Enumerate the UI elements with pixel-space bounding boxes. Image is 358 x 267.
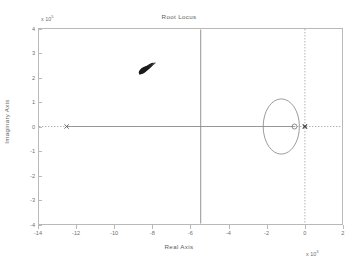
x-tick-label: -14 xyxy=(34,230,42,236)
x-tick-label: -4 xyxy=(226,230,231,236)
x-axis-multiplier-base: x 10 xyxy=(306,251,316,257)
y-tick-label: -1 xyxy=(21,148,35,154)
y-tick-label: -4 xyxy=(21,222,35,228)
y-tick xyxy=(38,102,42,103)
x-tick-label: 0 xyxy=(303,230,306,236)
x-tick xyxy=(190,225,191,229)
x-tick xyxy=(229,225,230,229)
y-axis-title: Imaginary Axis xyxy=(3,72,10,172)
y-tick-label: 3 xyxy=(24,50,35,56)
y-tick xyxy=(38,200,42,201)
x-axis-multiplier: x 103 xyxy=(306,249,318,257)
x-tick xyxy=(76,225,77,229)
root-locus-figure: Root Locus x 105 xyxy=(0,0,358,267)
x-tick xyxy=(152,225,153,229)
y-tick-label: -2 xyxy=(21,173,35,179)
y-tick xyxy=(38,225,42,226)
y-tick xyxy=(38,78,42,79)
y-tick-label: 2 xyxy=(24,75,35,81)
x-tick xyxy=(343,225,344,229)
y-tick xyxy=(38,29,42,30)
y-tick-label: 0 xyxy=(24,124,35,130)
y-tick xyxy=(38,53,42,54)
x-tick-label: -8 xyxy=(150,230,155,236)
x-tick-label: -2 xyxy=(264,230,269,236)
x-tick-label: -6 xyxy=(188,230,193,236)
x-axis-title: Real Axis xyxy=(0,243,358,250)
x-tick xyxy=(305,225,306,229)
x-tick-label: 2 xyxy=(341,230,344,236)
y-tick-label: -3 xyxy=(21,197,35,203)
x-tick-label: -12 xyxy=(72,230,80,236)
x-axis-multiplier-exponent: 3 xyxy=(316,249,318,254)
x-tick-label: -10 xyxy=(110,230,118,236)
locus-cluster-streak xyxy=(137,59,156,76)
x-tick xyxy=(38,225,39,229)
y-tick-label: 4 xyxy=(24,26,35,32)
x-tick xyxy=(114,225,115,229)
y-tick-label: 1 xyxy=(24,99,35,105)
y-tick xyxy=(38,176,42,177)
y-tick xyxy=(38,127,42,128)
y-tick xyxy=(38,151,42,152)
x-tick xyxy=(267,225,268,229)
